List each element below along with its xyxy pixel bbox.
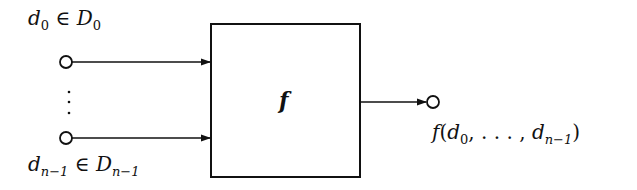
input-set: D [77, 6, 93, 30]
input-label-0: d0 ∈ D0 [28, 8, 101, 32]
element-of-symbol: ∈ [75, 152, 90, 176]
output-label: f(d0, . . . , dn−1) [432, 122, 580, 146]
input-var: d [28, 6, 41, 30]
ellipsis-dot [68, 112, 71, 115]
output-arg-last: d [532, 120, 545, 144]
output-arg-first: d [447, 120, 460, 144]
input-var-subscript: n−1 [41, 164, 69, 179]
input-var: d [28, 152, 41, 176]
ellipsis-dot [68, 91, 71, 94]
input-port-n-1 [60, 132, 72, 144]
input-set-subscript: 0 [93, 18, 101, 33]
output-port [427, 96, 439, 108]
input-var-subscript: 0 [41, 18, 49, 33]
function-label: f [279, 89, 288, 111]
input-set: D [96, 152, 112, 176]
input-port-0 [60, 56, 72, 68]
input-label-n-1: dn−1 ∈ Dn−1 [28, 154, 139, 178]
close-paren: ) [572, 120, 580, 144]
ellipsis-dot [68, 101, 71, 104]
input-set-subscript: n−1 [112, 164, 140, 179]
element-of-symbol: ∈ [55, 6, 70, 30]
output-arg-last-subscript: n−1 [545, 132, 573, 147]
output-separator: , . . . , [468, 120, 532, 144]
diagram-canvas: d0 ∈ D0 dn−1 ∈ Dn−1 f f(d0, . . . , dn−1… [0, 0, 637, 190]
